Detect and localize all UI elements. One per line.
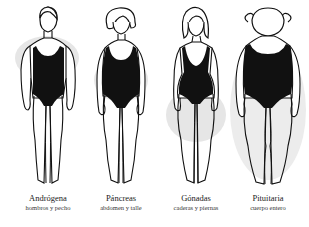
caption-pancreas: Páncreas abdomen y talle [81, 193, 161, 212]
caption-subtitle: cuerpo entero [228, 203, 308, 212]
figure-androgena [10, 0, 80, 190]
caption-gonadas: Gónadas caderas y piernas [156, 193, 236, 212]
figure-pituitaria [228, 0, 309, 190]
figure-pancreas [85, 0, 155, 190]
caption-subtitle: abdomen y talle [81, 203, 161, 212]
caption-androgena: Andrógena hombros y pecho [8, 193, 88, 212]
caption-title: Andrógena [8, 193, 88, 203]
caption-title: Páncreas [81, 193, 161, 203]
caption-subtitle: hombros y pecho [8, 203, 88, 212]
caption-title: Pituitaria [228, 193, 308, 203]
pancreas-body-illustration [85, 0, 155, 190]
figure-gonadas [160, 0, 230, 190]
caption-subtitle: caderas y piernas [156, 203, 236, 212]
androgena-body-illustration [10, 0, 80, 190]
pituitaria-body-illustration [228, 0, 309, 190]
caption-pituitaria: Pituitaria cuerpo entero [228, 193, 308, 212]
gonadas-body-illustration [160, 0, 230, 190]
caption-title: Gónadas [156, 193, 236, 203]
